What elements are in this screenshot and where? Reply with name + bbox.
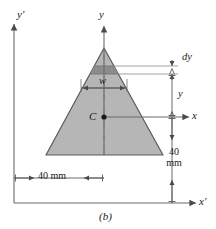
strip-extension-lines <box>114 66 178 74</box>
centroid-label: C <box>89 111 96 122</box>
x-prime-axis-label: x′ <box>199 196 206 207</box>
dy-label: dy <box>182 52 192 63</box>
height-dimension-label-line1: 40 <box>163 147 185 158</box>
base-width-label: 40 mm <box>38 171 66 181</box>
figure-drawing <box>0 0 216 229</box>
y-distance-label: y <box>178 89 183 100</box>
figure-caption: (b) <box>99 211 112 222</box>
height-dimension-label-line2: mm <box>161 158 187 169</box>
y-dimension <box>169 74 176 117</box>
y-prime-axis-label: y′ <box>17 9 24 20</box>
centroid-point <box>101 114 106 119</box>
y-axis-label: y <box>99 9 104 20</box>
w-label: w <box>99 76 106 87</box>
x-axis-label: x <box>192 110 197 121</box>
figure-container: y′ y x x′ dy y w C 40 mm 40 mm (b) <box>0 0 216 229</box>
